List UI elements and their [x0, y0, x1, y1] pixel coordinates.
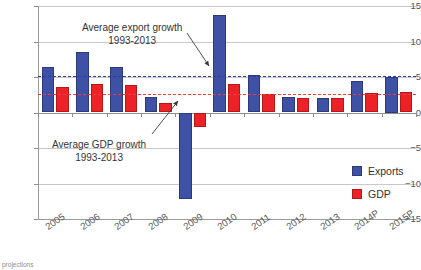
x-axis-labels: 2005200620072008200920102011201220132014… — [38, 221, 416, 267]
bar-chart: 151050−5−10−15 2005200620072008200920102… — [0, 0, 421, 270]
annotation-export-line2: 1993-2013 — [82, 35, 182, 48]
bar-gdp-2007 — [125, 85, 138, 113]
bar-gdp-2013 — [331, 98, 344, 112]
annotation-average-export-growth: Average export growth 1993-2013 — [82, 22, 182, 47]
bar-group — [210, 6, 244, 219]
x-axis-tick-mark — [416, 113, 417, 117]
legend-item-exports: Exports — [352, 165, 404, 177]
bar-exports-2012 — [282, 97, 295, 113]
bar-gdp-2010 — [228, 84, 241, 112]
bar-group — [244, 6, 278, 219]
bar-exports-2014P — [351, 81, 364, 113]
bar-exports-2010 — [213, 15, 226, 113]
bar-exports-2013 — [317, 98, 330, 113]
bar-gdp-2015P — [400, 92, 413, 113]
x-axis-tick-mark — [141, 113, 142, 117]
x-axis-tick-mark — [38, 113, 39, 117]
bar-group — [313, 6, 347, 219]
bar-gdp-2005 — [56, 87, 69, 113]
legend: Exports GDP — [352, 165, 404, 211]
bar-gdp-2011 — [262, 94, 275, 112]
legend-swatch-exports-icon — [352, 166, 362, 176]
bar-exports-2006 — [76, 52, 89, 112]
x-axis-tick-mark — [72, 113, 73, 117]
bar-gdp-2006 — [91, 84, 104, 112]
footnote: projections — [2, 261, 33, 268]
bar-gdp-2009 — [194, 113, 207, 128]
x-axis-tick-mark — [347, 113, 348, 117]
bar-exports-2015P — [385, 77, 398, 113]
bar-group — [279, 6, 313, 219]
annotation-gdp-line1: Average GDP growth — [52, 139, 146, 150]
legend-swatch-gdp-icon — [352, 189, 362, 199]
x-axis-tick-mark — [107, 113, 108, 117]
annotation-gdp-line2: 1993-2013 — [52, 152, 146, 165]
bar-gdp-2014P — [365, 93, 378, 113]
bar-gdp-2008 — [159, 103, 172, 113]
y-axis-tick-mark — [34, 219, 38, 220]
annotation-export-line1: Average export growth — [82, 22, 182, 33]
legend-label-gdp: GDP — [368, 188, 391, 200]
bar-exports-2007 — [110, 67, 123, 112]
bar-gdp-2012 — [297, 98, 310, 113]
legend-label-exports: Exports — [368, 165, 404, 177]
x-axis-tick-mark — [279, 113, 280, 117]
bar-exports-2011 — [248, 75, 261, 113]
bar-exports-2009 — [179, 113, 192, 200]
annotation-average-gdp-growth: Average GDP growth 1993-2013 — [52, 139, 146, 164]
bar-exports-2005 — [42, 67, 55, 112]
x-axis-tick-mark — [244, 113, 245, 117]
legend-item-gdp: GDP — [352, 188, 404, 200]
x-axis-tick-mark — [313, 113, 314, 117]
bar-exports-2008 — [145, 97, 158, 113]
x-axis-tick-mark — [175, 113, 176, 117]
x-axis-tick-mark — [210, 113, 211, 117]
x-axis-tick-mark — [382, 113, 383, 117]
bar-group — [38, 6, 72, 219]
